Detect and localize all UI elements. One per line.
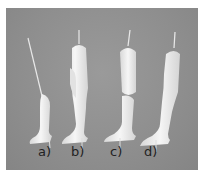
- label-a: a): [38, 144, 51, 159]
- leg-b: [62, 30, 88, 150]
- legs-illustration: [6, 8, 198, 170]
- label-d: d): [144, 144, 157, 159]
- leg-c: [104, 30, 136, 150]
- leg-a: [28, 38, 52, 148]
- photo: [6, 8, 198, 170]
- label-c: c): [110, 144, 122, 159]
- label-b: b): [71, 144, 84, 159]
- leg-d: [140, 32, 180, 152]
